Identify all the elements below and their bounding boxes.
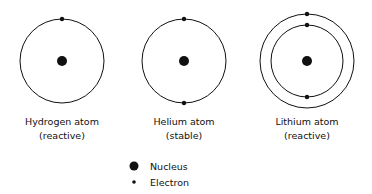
- lithium-atom: [260, 12, 354, 108]
- atom-diagram: Hydrogen atom (reactive) Helium atom (st…: [0, 0, 372, 194]
- hydrogen-atom-status: (reactive): [39, 130, 85, 141]
- electron-icon: [305, 12, 309, 16]
- legend: Nucleus Electron: [130, 161, 189, 188]
- electron-icon: [182, 101, 186, 105]
- electron-legend-icon: [132, 180, 136, 184]
- hydrogen-atom-label: Hydrogen atom: [25, 116, 99, 127]
- electron-icon: [305, 23, 309, 27]
- lithium-atom-label: Lithium atom: [275, 116, 338, 127]
- electron-icon: [60, 17, 64, 21]
- nucleus-legend-icon: [130, 162, 139, 171]
- helium-atom-status: (stable): [166, 130, 202, 141]
- electron-legend-label: Electron: [150, 177, 189, 188]
- nucleus-legend-label: Nucleus: [150, 161, 188, 172]
- hydrogen-atom: [20, 17, 104, 103]
- electron-icon: [305, 95, 309, 99]
- nucleus-icon: [57, 56, 67, 66]
- lithium-atom-status: (reactive): [284, 130, 330, 141]
- helium-atom-label: Helium atom: [153, 116, 214, 127]
- nucleus-icon: [179, 56, 189, 66]
- nucleus-icon: [302, 56, 312, 66]
- helium-atom: [142, 17, 226, 105]
- electron-icon: [182, 17, 186, 21]
